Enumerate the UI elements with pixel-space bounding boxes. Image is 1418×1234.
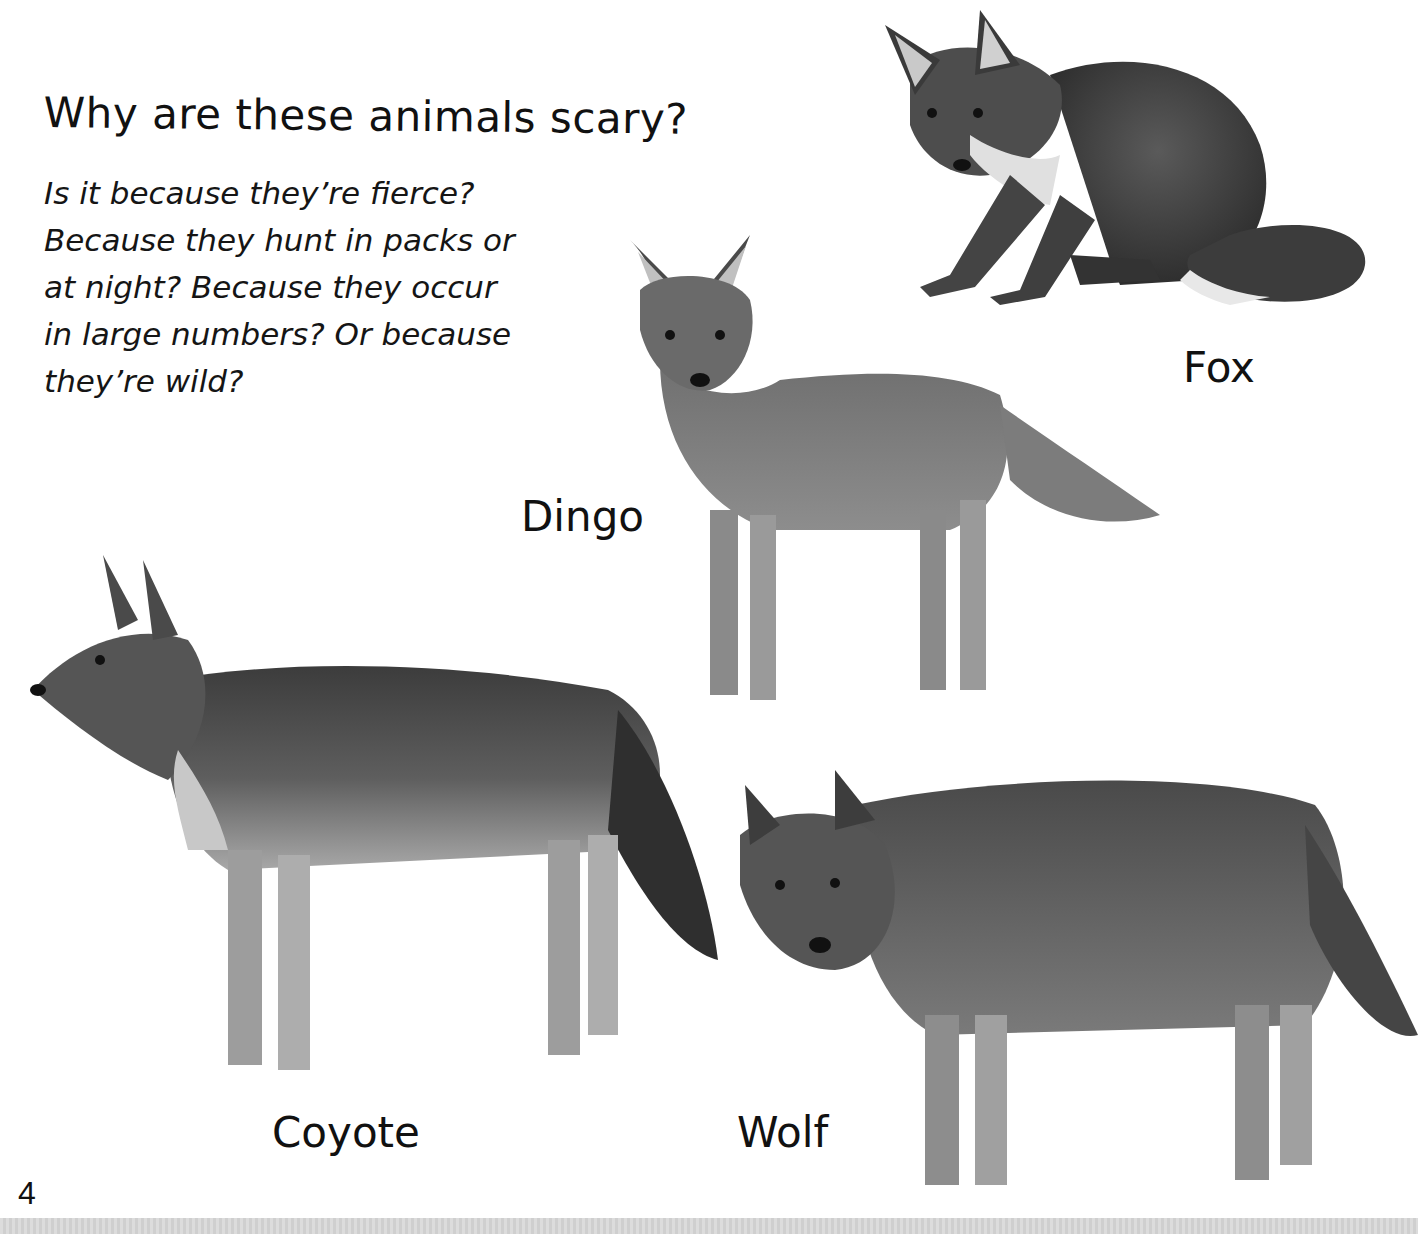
page-title: Why are these animals scary? bbox=[43, 88, 688, 144]
body-line: at night? Because they occur bbox=[44, 264, 584, 311]
body-line: in large numbers? Or because bbox=[44, 311, 584, 358]
fox-label: Fox bbox=[1183, 343, 1255, 392]
dingo-label: Dingo bbox=[521, 492, 644, 541]
page-number: 4 bbox=[18, 1175, 36, 1212]
wolf-label: Wolf bbox=[737, 1108, 828, 1157]
page-edge bbox=[0, 1218, 1418, 1234]
body-line: Is it because they’re fierce? bbox=[44, 170, 584, 217]
body-paragraph: Is it because they’re fierce? Because th… bbox=[44, 170, 584, 405]
coyote-label: Coyote bbox=[272, 1108, 420, 1157]
body-line: Because they hunt in packs or bbox=[44, 217, 584, 264]
book-page: Why are these animals scary? Is it becau… bbox=[0, 0, 1418, 1234]
coyote-illustration bbox=[28, 550, 728, 1090]
body-line: they’re wild? bbox=[44, 358, 584, 405]
wolf-illustration bbox=[735, 765, 1418, 1195]
